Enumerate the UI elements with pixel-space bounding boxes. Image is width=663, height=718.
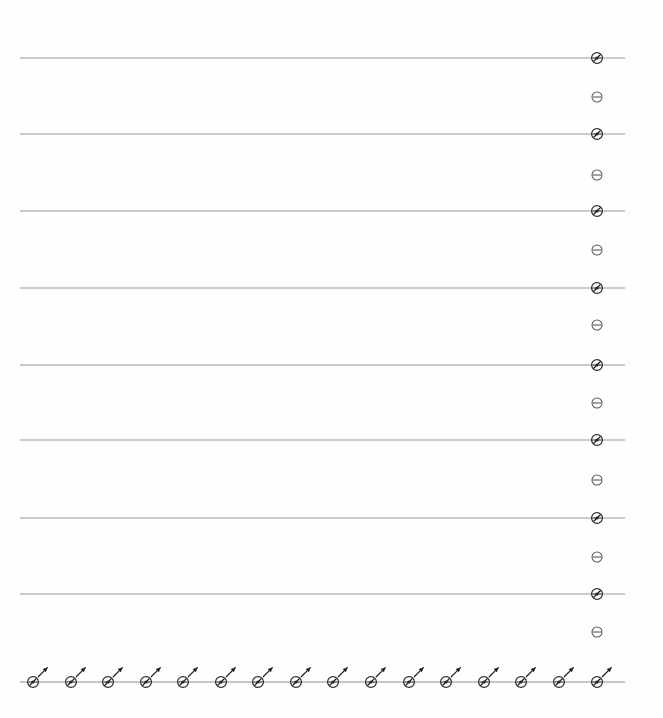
node-marker-dark[interactable] [66, 677, 77, 688]
node-marker-light[interactable] [592, 552, 602, 562]
up-right-arrow-icon [602, 668, 611, 677]
node-marker-dark[interactable] [178, 677, 189, 688]
up-right-arrow-icon [76, 668, 85, 677]
up-right-arrow-icon [226, 668, 235, 677]
node-marker-dark[interactable] [554, 677, 565, 688]
node-marker-dark[interactable] [216, 677, 227, 688]
node-marker-dark[interactable] [479, 677, 490, 688]
node-marker-light[interactable] [592, 92, 602, 102]
node-marker-dark[interactable] [592, 53, 603, 64]
up-right-arrow-icon [113, 668, 122, 677]
up-right-arrow-icon [451, 668, 460, 677]
gridline-group [20, 58, 625, 594]
bottom-node-row [28, 668, 612, 688]
node-marker-dark[interactable] [253, 677, 264, 688]
node-marker-light[interactable] [592, 475, 602, 485]
node-marker-dark[interactable] [366, 677, 377, 688]
node-marker-dark[interactable] [592, 435, 603, 446]
figure-root [0, 0, 663, 718]
node-marker-dark[interactable] [328, 677, 339, 688]
node-marker-dark[interactable] [141, 677, 152, 688]
up-right-arrow-icon [414, 668, 423, 677]
node-marker-dark[interactable] [28, 677, 39, 688]
node-marker-dark[interactable] [592, 283, 603, 294]
up-right-arrow-icon [263, 668, 272, 677]
up-right-arrow-icon [301, 668, 310, 677]
node-marker-light[interactable] [592, 627, 602, 637]
node-marker-dark[interactable] [592, 129, 603, 140]
up-right-arrow-icon [188, 668, 197, 677]
up-right-arrow-icon [38, 668, 47, 677]
up-right-arrow-icon [151, 668, 160, 677]
up-right-arrow-icon [338, 668, 347, 677]
node-marker-dark[interactable] [592, 677, 603, 688]
node-marker-light[interactable] [592, 170, 602, 180]
node-marker-dark[interactable] [291, 677, 302, 688]
node-axis-diagram [0, 0, 663, 718]
up-right-arrow-icon [376, 668, 385, 677]
up-right-arrow-icon [489, 668, 498, 677]
node-marker-dark[interactable] [404, 677, 415, 688]
node-marker-dark[interactable] [592, 360, 603, 371]
node-marker-light[interactable] [592, 245, 602, 255]
right-node-column [592, 53, 603, 637]
node-marker-dark[interactable] [592, 513, 603, 524]
node-marker-dark[interactable] [592, 206, 603, 217]
node-marker-light[interactable] [592, 398, 602, 408]
node-marker-dark[interactable] [103, 677, 114, 688]
node-marker-dark[interactable] [516, 677, 527, 688]
up-right-arrow-icon [564, 668, 573, 677]
node-marker-dark[interactable] [592, 589, 603, 600]
up-right-arrow-icon [526, 668, 535, 677]
node-marker-dark[interactable] [441, 677, 452, 688]
node-marker-light[interactable] [592, 320, 602, 330]
